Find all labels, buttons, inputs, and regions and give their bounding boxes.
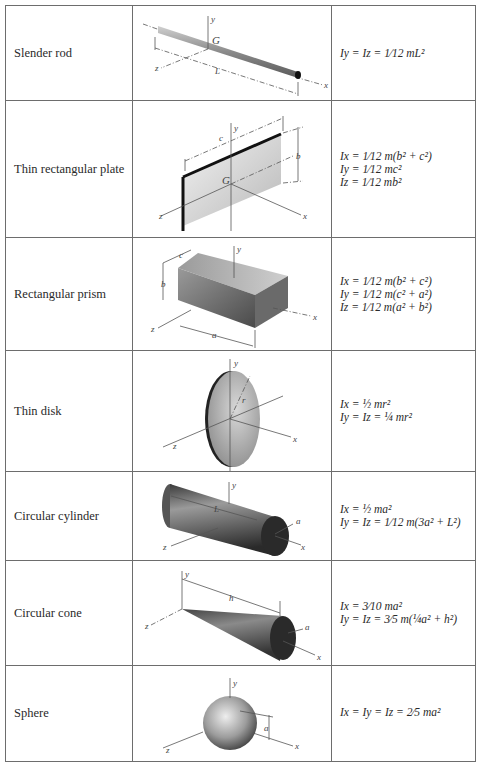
formulas: Iy = Iz = 1⁄12 mL²	[332, 6, 475, 100]
length-label: L	[213, 504, 219, 514]
table-row-thin-disk: Thin disk y r z x Ix = ½ m	[6, 351, 475, 472]
radius-label: a	[264, 723, 269, 733]
shape-name: Circular cylinder	[6, 472, 133, 560]
shape-name: Sphere	[6, 666, 133, 761]
y-axis-label: y	[210, 14, 215, 24]
rectangular-prism-figure: y c b a z x	[133, 238, 332, 350]
formulas: Ix = 1⁄12 m(b² + c²) Iy = 1⁄12 mc² Iz = …	[332, 101, 475, 237]
formula-line: Ix = 1⁄12 m(b² + c²)	[340, 150, 475, 163]
circular-cylinder-diagram: y L a z x	[133, 472, 332, 561]
z-axis-label: z	[150, 324, 155, 334]
formula-line: Iy = 1⁄12 mc²	[340, 163, 475, 176]
length-label: L	[214, 66, 220, 76]
table-row-slender-rod: Slender rod y G z L	[6, 6, 475, 101]
formula-line: Ix = ½ mr²	[340, 398, 475, 411]
formula-line: Ix = ½ ma²	[340, 503, 475, 516]
formula-line: Iz = 1⁄12 mb²	[340, 176, 475, 189]
table-row-thin-rectangular-plate: Thin rectangular plate	[6, 101, 475, 238]
table-row-sphere: Sphere y a z x Ix = Iy = I	[6, 666, 475, 761]
width-label: c	[219, 133, 223, 143]
formula-line: Ix = 3⁄10 ma²	[340, 600, 475, 613]
table-row-circular-cone: Circular cone y h a z x	[6, 561, 475, 666]
formula-line: Iy = Iz = 1⁄12 m(3a² + L²)	[340, 516, 475, 529]
z-axis-label: z	[154, 63, 159, 73]
sphere-diagram: y a z x	[133, 666, 332, 761]
height-label: b	[161, 279, 166, 289]
shape-name: Thin rectangular plate	[6, 101, 133, 237]
shape-name: Thin disk	[6, 351, 133, 471]
circular-cylinder-figure: y L a z x	[133, 472, 332, 560]
z-axis-label: z	[144, 621, 149, 631]
rectangular-prism-diagram: y c b a z x	[133, 238, 332, 351]
height-label: h	[229, 593, 234, 603]
x-axis-label: x	[300, 542, 305, 552]
x-axis-label: x	[316, 652, 321, 662]
depth-label: c	[179, 250, 183, 260]
shape-name: Circular cone	[6, 561, 133, 665]
x-axis-label: x	[312, 312, 317, 322]
thin-disk-diagram: y r z x	[133, 351, 332, 472]
height-label: b	[296, 151, 301, 161]
formula-line: Ix = Iy = Iz = 2⁄5 ma²	[340, 706, 475, 719]
thin-plate-diagram: y c b G z x	[133, 101, 332, 238]
x-axis-label: x	[323, 80, 328, 90]
formula-line: Iy = Iz = 3⁄5 m(¼a² + h²)	[340, 613, 475, 626]
radius-label: a	[305, 622, 310, 632]
table-row-circular-cylinder: Circular cylinder y L a z	[6, 472, 475, 561]
z-axis-label: z	[162, 542, 167, 552]
formula-line: Iy = Iz = 1⁄12 mL²	[340, 47, 475, 60]
z-axis-label: z	[158, 211, 163, 221]
formulas: Ix = 3⁄10 ma² Iy = Iz = 3⁄5 m(¼a² + h²)	[332, 561, 475, 665]
length-label: a	[212, 330, 217, 340]
formula-line: Iy = Iz = ¼ mr²	[340, 411, 475, 424]
x-axis-label: x	[292, 434, 297, 444]
y-axis-label: y	[231, 480, 236, 490]
y-axis-label: y	[236, 244, 241, 254]
y-axis-label: y	[233, 358, 238, 368]
circular-cone-figure: y h a z x	[133, 561, 332, 665]
thin-disk-figure: y r z x	[133, 351, 332, 471]
centroid-label: G	[212, 34, 220, 46]
formulas: Ix = Iy = Iz = 2⁄5 ma²	[332, 666, 475, 761]
formula-line: Ix = 1⁄12 m(b² + c²)	[340, 275, 475, 288]
moments-of-inertia-table: Slender rod y G z L	[5, 5, 476, 762]
z-axis-label: z	[165, 745, 170, 755]
x-axis-label: x	[294, 741, 299, 751]
centroid-label: G	[222, 174, 230, 186]
formulas: Ix = ½ mr² Iy = Iz = ¼ mr²	[332, 351, 475, 471]
radius-label: a	[296, 516, 301, 526]
slender-rod-diagram: y G z L x	[133, 6, 332, 101]
x-axis-label: x	[302, 211, 307, 221]
shape-name: Slender rod	[6, 6, 133, 100]
table-row-rectangular-prism: Rectangular prism	[6, 238, 475, 351]
z-axis-label: z	[172, 441, 177, 451]
formulas: Ix = 1⁄12 m(b² + c²) Iy = 1⁄12 m(c² + a²…	[332, 238, 475, 350]
slender-rod-figure: y G z L x	[133, 6, 332, 100]
radius-label: r	[242, 395, 246, 405]
y-axis-label: y	[233, 123, 238, 133]
y-axis-label: y	[184, 569, 189, 579]
formulas: Ix = ½ ma² Iy = Iz = 1⁄12 m(3a² + L²)	[332, 472, 475, 560]
thin-plate-figure: y c b G z x	[133, 101, 332, 237]
formula-line: Iz = 1⁄12 m(a² + b²)	[340, 301, 475, 314]
shape-name: Rectangular prism	[6, 238, 133, 350]
formula-line: Iy = 1⁄12 m(c² + a²)	[340, 288, 475, 301]
circular-cone-diagram: y h a z x	[133, 561, 332, 666]
y-axis-label: y	[232, 678, 237, 688]
sphere-figure: y a z x	[133, 666, 332, 761]
